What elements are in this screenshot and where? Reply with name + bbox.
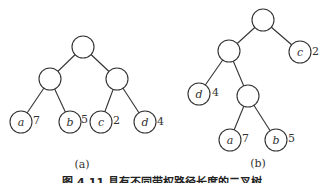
- tree-b-leaf-b-label: b: [272, 134, 279, 147]
- tree-b-leaf-c-label: c: [297, 46, 303, 59]
- tree-a-sublabel: (a): [74, 158, 89, 171]
- tree-b-leaf-a-label: a: [227, 134, 234, 147]
- tree-b-sublabel: (b): [250, 157, 266, 170]
- tree-a-leaf-d-label: d: [141, 116, 148, 129]
- tree-a-leaf-a-label: a: [18, 116, 25, 129]
- tree-b-leaf-b-weight: 5: [288, 132, 295, 145]
- tree-a-leaf-b-label: b: [66, 116, 73, 129]
- tree-a-leaf-a-weight: 7: [33, 114, 40, 127]
- tree-a-internal-node-left: [39, 68, 61, 90]
- tree-a-leaf-c-label: c: [98, 116, 104, 129]
- tree-b: c 2 d 4 a 7 b 5 (b): [188, 9, 319, 170]
- tree-a-leaf-c-weight: 2: [113, 114, 120, 127]
- tree-a-root-node: [72, 36, 94, 58]
- tree-b-leaf-c-weight: 2: [312, 45, 319, 58]
- tree-b-leaf-a-weight: 7: [242, 132, 249, 145]
- tree-b-internal-node-2: [237, 85, 259, 107]
- tree-a-leaf-d-weight: 4: [157, 115, 164, 128]
- diagram-canvas: a 7 b 5 c 2 d 4 (a) c 2 d 4 a 7 b 5: [0, 0, 324, 183]
- tree-a-leaf-b-weight: 5: [81, 113, 88, 126]
- tree-b-leaf-d-weight: 4: [212, 86, 219, 99]
- tree-b-internal-node-1: [218, 40, 240, 62]
- tree-a-internal-node-right: [106, 68, 128, 90]
- tree-b-root-node: [252, 9, 274, 31]
- tree-b-leaf-d-label: d: [195, 88, 202, 101]
- figure-caption: 图 4.11 具有不同带权路径长度的二叉树: [62, 175, 262, 183]
- tree-a: a 7 b 5 c 2 d 4 (a): [10, 36, 164, 171]
